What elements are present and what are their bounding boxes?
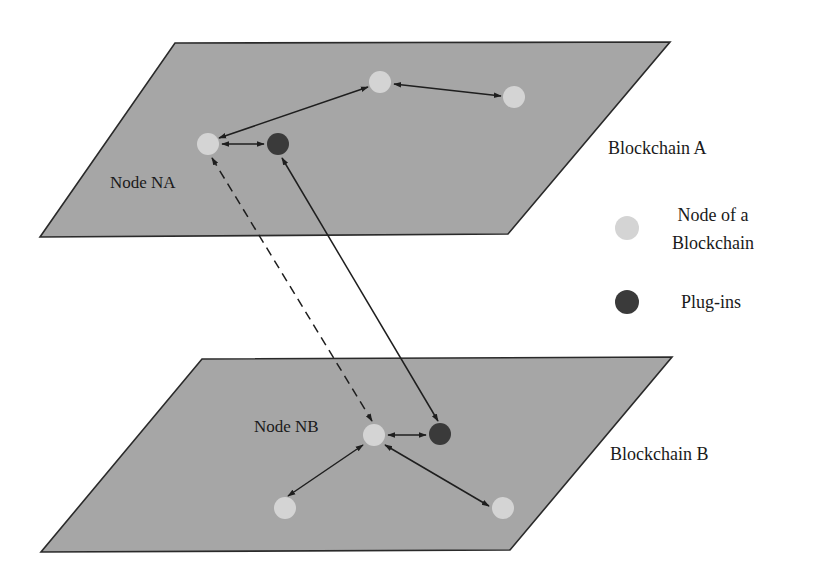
node-nb-label: Node NB: [254, 417, 319, 436]
node-a-top: [369, 71, 391, 93]
node-circle-icon: [615, 216, 639, 240]
blockchain-b-label: Blockchain B: [610, 444, 708, 464]
blockchain-a-group: Node NA: [40, 42, 670, 237]
blockchain-b-group: Node NB: [41, 357, 672, 552]
node-b-right: [492, 497, 514, 519]
blockchain-interop-diagram: Node NA Node NB Blockchain A Blockchain …: [0, 0, 821, 586]
plugin-circle-icon: [615, 290, 639, 314]
blockchain-b-plane: [41, 357, 672, 552]
legend-plugin-label: Plug-ins: [681, 292, 741, 312]
legend-node-label-line1: Node of a: [678, 205, 749, 225]
node-a-right: [503, 86, 525, 108]
blockchain-a-plane: [40, 42, 670, 237]
node-nb: [363, 424, 385, 446]
blockchain-a-label: Blockchain A: [608, 138, 706, 158]
legend: Node of a Blockchain Plug-ins: [615, 205, 754, 314]
plugin-b: [429, 423, 451, 445]
legend-node-label-line2: Blockchain: [672, 233, 754, 253]
node-na: [197, 133, 219, 155]
plugin-a: [267, 133, 289, 155]
node-na-label: Node NA: [110, 173, 176, 192]
node-b-left: [274, 497, 296, 519]
